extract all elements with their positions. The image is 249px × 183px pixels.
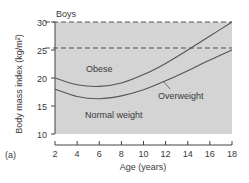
x-tick-label: 8 — [119, 149, 124, 159]
region-label-normal: Normal weight — [85, 110, 143, 120]
y-tick-label: 20 — [37, 74, 47, 84]
y-ticks: 1015202530 — [37, 18, 55, 140]
panel-label: (a) — [5, 150, 16, 160]
x-tick-label: 18 — [227, 149, 237, 159]
y-tick-label: 15 — [37, 102, 47, 112]
region-label-obese: Obese — [86, 64, 113, 74]
bmi-chart: 1015202530 24681012141618 Boys Obese Ove… — [0, 0, 249, 183]
x-tick-label: 6 — [97, 149, 102, 159]
y-tick-label: 30 — [37, 18, 47, 28]
x-tick-label: 14 — [183, 149, 193, 159]
chart-title: Boys — [56, 9, 77, 19]
x-tick-label: 2 — [52, 149, 57, 159]
x-tick-label: 10 — [138, 149, 148, 159]
x-axis-label: Age (years) — [120, 162, 167, 172]
y-tick-label: 10 — [37, 130, 47, 140]
y-axis-label: Body mass index (kg/m²) — [14, 34, 24, 134]
x-tick-label: 12 — [161, 149, 171, 159]
x-tick-label: 16 — [205, 149, 215, 159]
y-tick-label: 25 — [37, 46, 47, 56]
region-label-overweight: Overweight — [158, 91, 204, 101]
x-ticks: 24681012141618 — [52, 141, 237, 159]
x-tick-label: 4 — [75, 149, 80, 159]
